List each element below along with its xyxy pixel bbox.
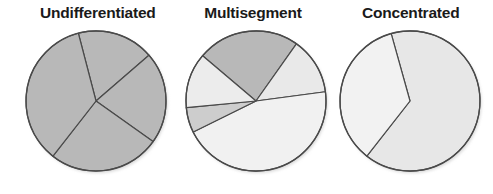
- pie-multisegment: [186, 31, 328, 173]
- pie-concentrated: [340, 31, 482, 173]
- pie-undifferentiated: [26, 31, 168, 173]
- pie-charts: [0, 0, 493, 194]
